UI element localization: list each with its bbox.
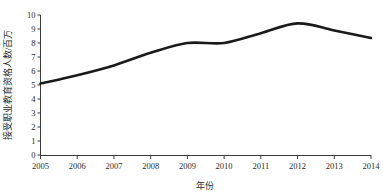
y-axis-tick-label: 8: [31, 38, 35, 48]
y-axis-tick-labels: 012345678910: [27, 10, 36, 160]
y-axis-tick-label: 7: [31, 52, 35, 62]
y-axis-tick-label: 4: [31, 94, 36, 104]
line-chart-figure: 012345678910 200520062007200820092010201…: [0, 0, 383, 196]
y-axis-tick-label: 3: [31, 108, 35, 118]
chart-plot-area: 012345678910 200520062007200820092010201…: [0, 0, 383, 196]
x-axis-title: 年份: [196, 180, 214, 191]
y-axis-tick-label: 0: [31, 150, 35, 160]
y-axis-tick-label: 1: [31, 136, 35, 146]
y-axis-tick-label: 6: [31, 66, 35, 76]
x-axis-tick-label: 2007: [105, 161, 122, 171]
x-axis-tick-label: 2010: [216, 161, 233, 171]
x-axis: 2005200620072008200920102011201220132014: [32, 155, 380, 171]
y-axis-tick-label: 5: [31, 80, 35, 90]
x-axis-tick-label: 2005: [32, 161, 49, 171]
data-series-line: [41, 23, 372, 83]
x-axis-tick-label: 2012: [289, 161, 306, 171]
x-axis-tick-labels: 2005200620072008200920102011201220132014: [32, 161, 380, 171]
x-axis-tick-label: 2011: [252, 161, 269, 171]
y-axis-title: 接受职业教育资格人数/百万: [2, 30, 13, 141]
x-axis-tick-label: 2013: [326, 161, 343, 171]
x-axis-tick-label: 2014: [363, 161, 381, 171]
x-axis-tick-label: 2006: [69, 161, 86, 171]
y-axis: 012345678910: [27, 10, 41, 160]
y-axis-tick-label: 2: [31, 122, 35, 132]
x-axis-tick-label: 2009: [179, 161, 196, 171]
y-axis-tick-label: 10: [27, 10, 36, 20]
y-axis-tick-label: 9: [31, 24, 35, 34]
x-axis-tick-label: 2008: [142, 161, 159, 171]
